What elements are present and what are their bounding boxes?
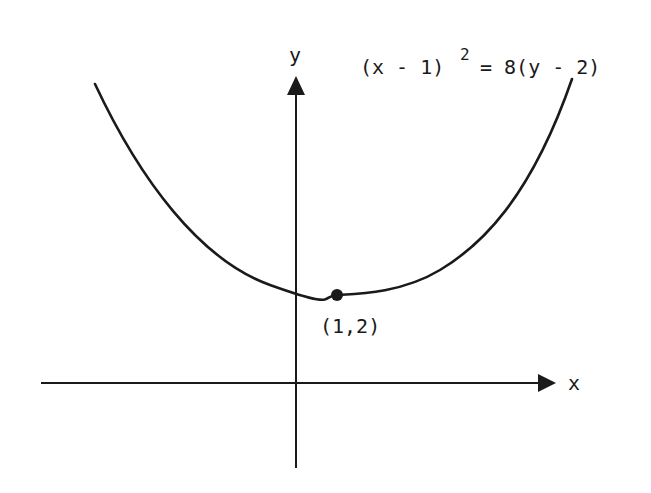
vertex-label: (1,2) [320,314,380,338]
x-axis-label: x [568,371,580,395]
y-axis-label: y [289,43,301,67]
parabola-diagram: x y (1,2) (x - 1) 2 = 8(y - 2) [0,0,651,493]
parabola-curve [95,79,572,300]
equation-exponent: 2 [460,45,470,64]
vertex-point [331,289,343,301]
equation-right: = 8(y - 2) [480,55,600,79]
equation-left: (x - 1) [360,55,444,79]
x-axis-arrow-icon [538,374,556,392]
y-axis-arrow-icon [287,76,305,95]
